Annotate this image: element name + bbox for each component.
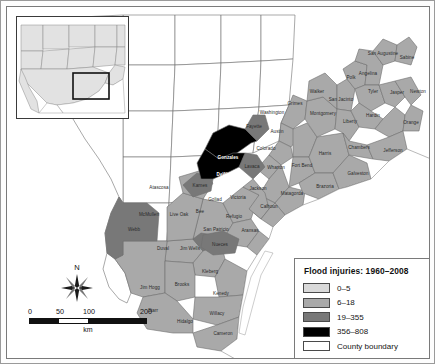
map-plate: Gonzales DeWitt Lavaca Fayette Karnes We… xyxy=(6,6,430,359)
legend-row-356-808: 356–808 xyxy=(303,325,427,340)
legend: Flood injuries: 1960–2008 0–5 6–18 19–35… xyxy=(294,258,430,359)
legend-label-19-355: 19–355 xyxy=(337,313,364,322)
scale-seg-3 xyxy=(88,319,146,323)
legend-title: Flood injuries: 1960–2008 xyxy=(304,266,427,276)
legend-row-6-18: 6–18 xyxy=(303,296,427,311)
legend-row-0-5: 0–5 xyxy=(303,281,427,296)
legend-label-county-boundary: County boundary xyxy=(337,342,398,351)
legend-swatch-19-355 xyxy=(303,312,330,322)
legend-swatch-county-boundary xyxy=(303,341,330,351)
legend-row-19-355: 19–355 xyxy=(303,310,427,325)
compass-rose: N xyxy=(59,263,95,305)
legend-swatch-356-808 xyxy=(303,327,330,337)
scale-tick-200: 200 xyxy=(140,307,152,316)
scale-seg-1 xyxy=(30,319,59,323)
compass-north-label: N xyxy=(59,263,95,272)
locator-inset-map xyxy=(16,16,129,119)
legend-swatch-6-18 xyxy=(303,298,330,308)
inset-svg xyxy=(17,17,128,118)
scale-tick-50: 50 xyxy=(56,307,64,316)
legend-swatch-0-5 xyxy=(303,283,330,293)
legend-row-county-boundary: County boundary xyxy=(303,339,427,354)
scale-tick-100: 100 xyxy=(83,307,95,316)
scale-tick-labels: 0 50 100 200 xyxy=(29,307,149,318)
scale-seg-2 xyxy=(59,319,88,323)
flood-injuries-map-figure: Gonzales DeWitt Lavaca Fayette Karnes We… xyxy=(0,0,435,364)
scale-unit-label: km xyxy=(29,326,147,333)
scale-bar xyxy=(29,318,147,324)
legend-label-0-5: 0–5 xyxy=(337,284,350,293)
scale-bar-group: 0 50 100 200 km xyxy=(29,307,149,333)
legend-label-356-808: 356–808 xyxy=(337,327,368,336)
legend-label-6-18: 6–18 xyxy=(337,298,355,307)
scale-tick-0: 0 xyxy=(28,307,32,316)
compass-star-icon xyxy=(59,272,95,304)
